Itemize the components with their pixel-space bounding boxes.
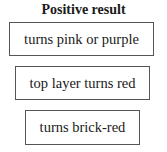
result-label: turns brick-red [40, 119, 126, 136]
heading-positive-result: Positive result [0, 2, 167, 18]
result-label: top layer turns red [30, 75, 136, 92]
result-box-3: turns brick-red [25, 110, 140, 145]
result-box-1: turns pink or purple [9, 22, 154, 56]
result-label: turns pink or purple [24, 31, 139, 48]
result-box-2: top layer turns red [15, 66, 150, 100]
